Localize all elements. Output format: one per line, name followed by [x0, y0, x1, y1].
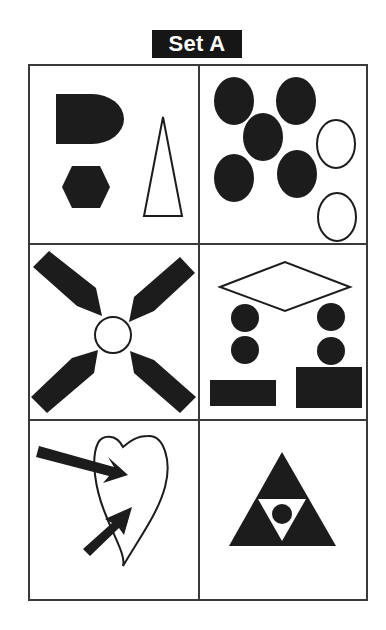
filled-oval-icon — [214, 154, 254, 202]
center-circle-icon — [95, 317, 131, 353]
cell-row3-col2 — [200, 421, 366, 599]
cell-row1-col1 — [30, 66, 198, 243]
filled-circle-icon — [231, 336, 259, 364]
cell-row2-col2 — [200, 245, 366, 419]
cell-row2-col1 — [30, 245, 198, 419]
pointed-bar-icon — [129, 257, 195, 322]
set-title: Set A — [152, 30, 242, 58]
arrow-icon — [83, 507, 132, 556]
filled-circle-icon — [231, 304, 259, 332]
filled-circle-icon — [317, 337, 345, 365]
filled-rectangle-icon — [210, 380, 276, 406]
filled-oval-icon — [277, 150, 317, 198]
arrow-icon — [36, 446, 128, 483]
filled-oval-icon — [214, 77, 254, 125]
filled-rectangle-icon — [296, 367, 362, 408]
narrow-triangle-icon — [144, 117, 182, 216]
outlined-oval-icon — [318, 193, 356, 241]
pointed-bar-icon — [31, 350, 98, 413]
filled-circle-icon — [317, 303, 345, 331]
heart-icon — [94, 436, 167, 566]
center-dot-icon — [272, 504, 292, 524]
d-shape-icon — [56, 94, 124, 144]
pointed-bar-icon — [130, 351, 196, 413]
filled-oval-icon — [276, 77, 316, 125]
cell-row1-col2 — [200, 66, 366, 243]
hexagon-icon — [62, 166, 110, 208]
shape-grid — [28, 64, 368, 601]
cell-row3-col1 — [30, 421, 198, 599]
pointed-bar-icon — [33, 251, 102, 316]
filled-oval-icon — [243, 113, 283, 161]
outlined-oval-icon — [317, 120, 355, 168]
